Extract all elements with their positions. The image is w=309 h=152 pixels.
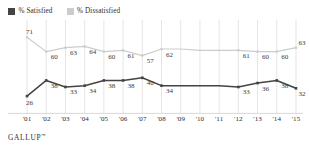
data-point-marker [141, 77, 144, 80]
x-axis-tick-label: '12 [234, 115, 243, 123]
data-point-marker [237, 49, 239, 51]
data-point-marker [295, 87, 298, 90]
data-point-marker [103, 79, 106, 82]
gallup-line-chart: % Satisfied % Dissatisfied 7160636460615… [0, 0, 309, 152]
gallup-brand: GALLUP™ [8, 133, 46, 142]
x-axis-tick-label: '02 [42, 115, 51, 123]
legend-item-satisfied: % Satisfied [8, 7, 53, 15]
data-value-label: 26 [26, 99, 34, 107]
x-axis-tick-label: '01 [23, 115, 32, 123]
data-value-label: 63 [299, 39, 307, 47]
data-point-marker [64, 47, 66, 49]
data-value-label: 60 [281, 53, 289, 61]
data-value-label: 38 [108, 82, 116, 90]
data-value-label: 61 [243, 52, 251, 60]
x-axis-tick-label: '07 [138, 115, 147, 123]
data-point-marker [160, 84, 163, 87]
data-point-marker [26, 36, 28, 38]
data-value-label: 62 [166, 51, 174, 59]
data-value-label: 60 [51, 53, 59, 61]
data-point-marker [45, 79, 48, 82]
x-axis-tick-label: '05 [100, 115, 109, 123]
data-point-marker [26, 95, 29, 98]
data-point-marker [256, 51, 258, 53]
x-axis-tick-label: '06 [119, 115, 128, 123]
data-point-marker [237, 86, 240, 89]
data-point-marker [122, 49, 124, 51]
data-value-label: 38 [128, 82, 136, 90]
x-axis-tick-label: '08 [157, 115, 166, 123]
data-point-marker [256, 82, 259, 85]
data-value-label: 38 [51, 82, 59, 90]
legend-swatch-icon [8, 8, 15, 15]
plot-svg: 7160636460615762616060632638333438384034… [0, 20, 309, 114]
x-axis-tick-label: '15 [292, 115, 301, 123]
data-value-label: 57 [147, 57, 155, 65]
data-point-marker [45, 51, 47, 53]
legend-label-dissatisfied: % Dissatisfied [77, 7, 120, 15]
chart-legend: % Satisfied % Dissatisfied [8, 7, 120, 15]
data-point-marker [141, 54, 143, 56]
x-axis-tick-label: '13 [253, 115, 262, 123]
data-value-label: 63 [70, 49, 78, 57]
x-axis-tick-label: '09 [176, 115, 185, 123]
x-axis-tick-label: '10 [196, 115, 205, 123]
gallup-brand-text: GALLUP [8, 133, 41, 142]
data-point-marker [160, 48, 162, 50]
data-point-marker [275, 79, 278, 82]
data-value-label: 36 [262, 85, 270, 93]
legend-label-satisfied: % Satisfied [19, 7, 53, 15]
data-value-label: 33 [70, 88, 78, 96]
data-point-marker [83, 84, 86, 87]
data-value-label: 60 [108, 53, 116, 61]
x-axis-tick-label: '11 [215, 115, 223, 123]
data-value-label: 33 [243, 88, 251, 96]
data-point-marker [295, 47, 297, 49]
data-value-label: 32 [299, 90, 307, 98]
data-point-marker [276, 51, 278, 53]
data-value-label: 34 [89, 87, 97, 95]
data-point-marker [64, 86, 67, 89]
data-value-label: 61 [128, 52, 136, 60]
data-point-marker [122, 79, 125, 82]
data-value-label: 38 [281, 82, 289, 90]
trademark-icon: ™ [41, 133, 45, 138]
data-point-marker [103, 51, 105, 53]
x-axis-tick-label: '14 [273, 115, 282, 123]
data-value-label: 34 [166, 87, 174, 95]
data-value-label: 71 [26, 28, 34, 36]
plot-area: 7160636460615762616060632638333438384034… [0, 20, 309, 114]
data-value-label: 64 [89, 48, 97, 56]
x-axis-tick-label: '03 [61, 115, 70, 123]
data-value-label: 60 [262, 53, 270, 61]
data-point-marker [84, 45, 86, 47]
legend-swatch-icon [67, 8, 74, 15]
legend-item-dissatisfied: % Dissatisfied [67, 7, 121, 15]
x-axis-tick-label: '04 [80, 115, 89, 123]
data-value-label: 40 [147, 79, 155, 87]
x-axis: '01'02'03'04'05'06'07'08'09'10'11'12'13'… [0, 115, 309, 127]
